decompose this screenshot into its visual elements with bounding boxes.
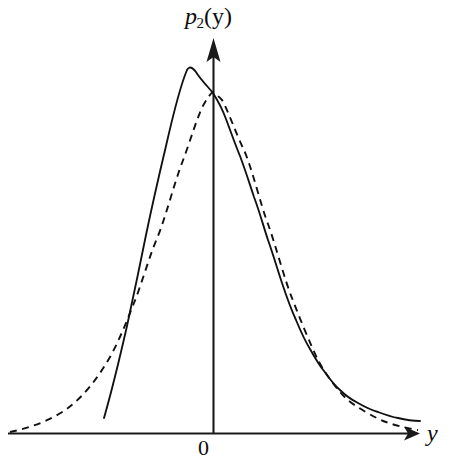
origin-label: 0 bbox=[198, 437, 209, 459]
y-axis-label-subscript: 2 bbox=[197, 15, 205, 31]
solid-density-curve bbox=[104, 67, 420, 421]
figure-canvas bbox=[0, 0, 456, 463]
figure-container: p2(y) 0 y bbox=[0, 0, 456, 463]
y-axis-label-argument: (y) bbox=[204, 3, 232, 29]
x-axis-label: y bbox=[427, 421, 438, 445]
y-axis-label: p2(y) bbox=[185, 4, 232, 31]
y-axis-label-symbol: p bbox=[185, 3, 197, 29]
